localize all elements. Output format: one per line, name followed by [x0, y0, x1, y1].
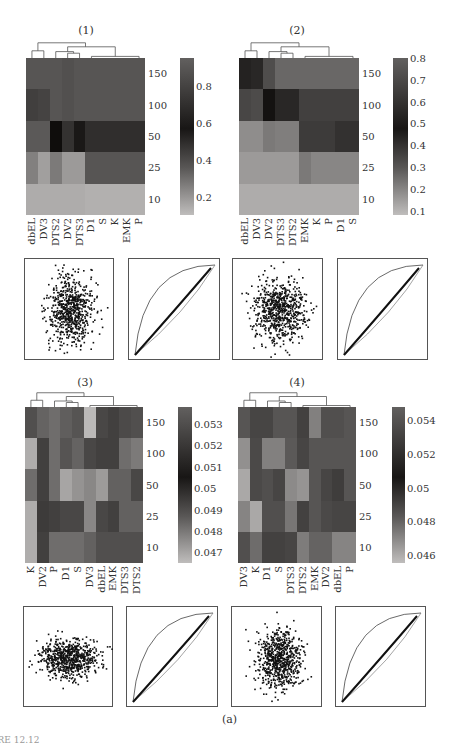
heatmap-cell [49, 407, 61, 438]
heatmap-cell [297, 532, 309, 563]
heatmap-cell [108, 407, 120, 438]
column-labels: KDV2PD1SDV3dbELEMKDTS3DTS2 [25, 566, 143, 596]
heatmap-cell [275, 121, 287, 152]
heatmap-cell [60, 469, 72, 500]
heatmap-cell [108, 501, 120, 532]
column-label: K [109, 218, 121, 248]
heatmap-cell [239, 184, 251, 215]
colorbar-tick: 0.05 [407, 482, 429, 493]
colorbar-tick: 0.2 [196, 191, 212, 202]
row-label: 100 [359, 438, 378, 469]
heatmap [25, 407, 143, 563]
heatmap-cell [38, 58, 50, 89]
heatmap-cell [263, 152, 275, 183]
heatmap-cell [62, 58, 74, 89]
row-label: 150 [148, 58, 167, 89]
colorbar-tick: 0.7 [410, 74, 426, 85]
column-label-text: DTS2 [51, 218, 61, 246]
heatmap-cell [347, 58, 359, 89]
heatmap-cell [344, 501, 356, 532]
heatmap-cell [26, 184, 38, 215]
heatmap-cell [323, 121, 335, 152]
heatmap-cell [121, 89, 133, 120]
qq-plot [128, 258, 220, 360]
heatmap-cell [263, 58, 275, 89]
heatmap-cell [121, 58, 133, 89]
heatmap-cell [84, 438, 96, 469]
heatmap-cell [250, 469, 262, 500]
heatmap-cell [287, 89, 299, 120]
column-label: D1 [262, 566, 274, 596]
column-label-text: S [73, 566, 83, 573]
footer-text: URE 12.12 [0, 735, 40, 745]
heatmap-cell [321, 501, 333, 532]
column-label-text: D1 [61, 566, 71, 580]
heatmap-cell [50, 152, 62, 183]
column-label-text: DTS2 [132, 566, 142, 594]
heatmap-cell [119, 407, 131, 438]
column-label: dbEL [26, 218, 38, 248]
heatmap-cell [311, 89, 323, 120]
heatmap-cell [131, 532, 143, 563]
scatter-plot [24, 258, 114, 360]
heatmap-cell [273, 407, 285, 438]
column-label: D1 [86, 218, 98, 248]
qq-plot [335, 606, 426, 707]
colorbar-tick: 0.4 [410, 140, 426, 151]
heatmap-cell [38, 121, 50, 152]
heatmap-cell [299, 58, 311, 89]
colorbar-tick: 0.048 [194, 525, 223, 536]
heatmap-cell [72, 532, 84, 563]
heatmap-cell [84, 501, 96, 532]
heatmap-cell [96, 501, 108, 532]
row-label: 25 [148, 152, 167, 183]
heatmap-cell [332, 469, 344, 500]
heatmap-cell [297, 501, 309, 532]
heatmap-cell [239, 152, 251, 183]
heatmap-cell [262, 438, 274, 469]
colorbar-tick: 0.3 [410, 162, 426, 173]
heatmap-cell [38, 152, 50, 183]
column-label: DTS2 [131, 566, 143, 596]
heatmap-cell [84, 469, 96, 500]
heatmap-cell [239, 89, 251, 120]
column-label: DV3 [38, 218, 50, 248]
heatmap-cell [25, 501, 37, 532]
row-label: 50 [359, 469, 378, 500]
heatmap-cell [119, 501, 131, 532]
row-label: 10 [148, 184, 167, 215]
colorbar-tick: 0.8 [196, 80, 212, 91]
heatmap-cell [62, 121, 74, 152]
column-label-text: P [324, 218, 334, 225]
heatmap-cell [74, 89, 86, 120]
heatmap-cell [121, 152, 133, 183]
heatmap-cell [309, 501, 321, 532]
column-label-text: P [134, 218, 144, 225]
heatmap-cell [84, 532, 96, 563]
heatmap-cell [108, 532, 120, 563]
colorbar-tick: 0.1 [410, 205, 426, 216]
column-label: EMK [299, 218, 311, 248]
colorbar-tick: 0.2 [410, 183, 426, 194]
heatmap-cell [85, 152, 97, 183]
heatmap-cell [309, 438, 321, 469]
column-label: DTS3 [275, 218, 287, 248]
colorbar [393, 58, 408, 215]
column-label-text: D1 [86, 218, 96, 232]
colorbar-tick: 0.6 [196, 117, 212, 128]
column-label: dbEL [332, 566, 344, 596]
heatmap-cell [297, 469, 309, 500]
heatmap-cell [60, 532, 72, 563]
heatmap-cell [273, 438, 285, 469]
column-label-text: S [98, 218, 108, 225]
heatmap-cell [49, 438, 61, 469]
panel-title: (4) [277, 376, 317, 389]
column-label-text: DV2 [264, 218, 274, 239]
heatmap-cell [335, 152, 347, 183]
heatmap-cell [37, 438, 49, 469]
column-label-text: DV3 [239, 566, 249, 587]
column-label: DTS3 [285, 566, 297, 596]
heatmap-cell [50, 89, 62, 120]
heatmap-cell [119, 469, 131, 500]
column-label-text: DV3 [252, 218, 262, 239]
